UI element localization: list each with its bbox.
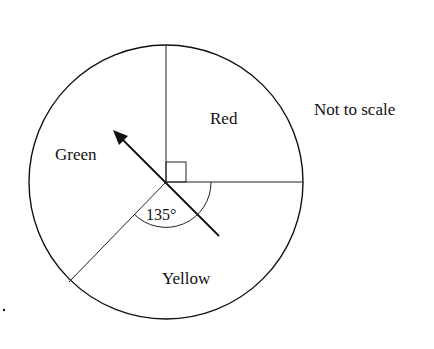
sector-label-red: Red [210,109,238,128]
not-to-scale-note: Not to scale [314,100,395,119]
right-angle-marker [166,162,186,182]
sector-label-yellow: Yellow [162,269,211,288]
divider-yellow-green [69,182,166,282]
angle-label: 135° [146,206,176,223]
stray-dot [3,309,5,311]
pie-diagram: Red Green Yellow 135° Not to scale [0,0,434,349]
sector-label-green: Green [55,145,97,164]
